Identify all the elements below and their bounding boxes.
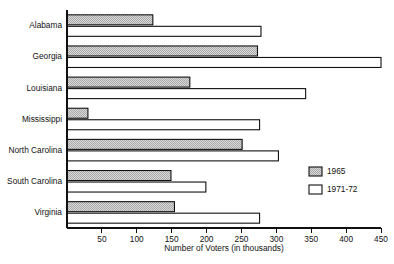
category-label: Georgia	[32, 51, 62, 61]
legend-label-1965: 1965	[327, 166, 346, 176]
legend-swatch-1965	[309, 167, 322, 176]
chart-background	[0, 0, 394, 264]
bar	[67, 151, 278, 161]
x-tick-label: 450	[374, 234, 388, 244]
category-label: Mississippi	[22, 114, 62, 124]
category-label: Alabama	[29, 20, 62, 30]
bar	[67, 202, 174, 212]
chart-canvas: AlabamaGeorgiaLouisianaMississippiNorth …	[0, 0, 394, 264]
bar	[67, 77, 190, 87]
legend-label-1971-72: 1971-72	[327, 184, 358, 194]
bar	[67, 89, 306, 99]
bar	[67, 57, 381, 67]
category-label: North Carolina	[9, 145, 63, 155]
bar	[67, 120, 260, 130]
legend-swatch-1971-72	[309, 185, 322, 194]
x-tick-label: 100	[130, 234, 144, 244]
x-tick-label: 350	[304, 234, 318, 244]
category-label: South Carolina	[7, 176, 62, 186]
bar-chart: AlabamaGeorgiaLouisianaMississippiNorth …	[0, 0, 394, 264]
bar	[67, 46, 257, 56]
x-tick-label: 50	[97, 234, 107, 244]
category-label: Virginia	[34, 207, 62, 217]
bar	[67, 15, 153, 25]
x-tick-label: 400	[339, 234, 353, 244]
category-label: Louisiana	[26, 83, 62, 93]
bar	[67, 213, 260, 223]
bar	[67, 171, 171, 181]
bar	[67, 26, 261, 36]
bar	[67, 108, 88, 118]
bar	[67, 182, 206, 192]
x-axis-title: Number of Voters (in thousands)	[164, 243, 284, 253]
bar	[67, 139, 242, 149]
